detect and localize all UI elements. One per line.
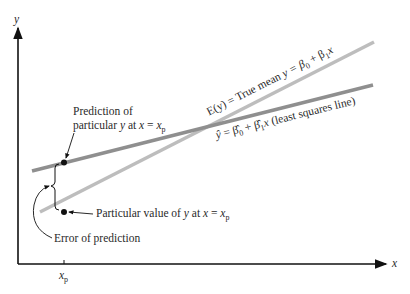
predicted-point (61, 160, 67, 166)
xp-tick-label: xp (59, 268, 68, 287)
prediction-label-line2: particular y at x = xp (73, 118, 166, 137)
prediction-label: Prediction of particular y at x = xp (73, 104, 166, 137)
particular-pointer (69, 212, 93, 214)
x-axis-label: x (392, 256, 397, 270)
error-of-prediction-label: Error of prediction (54, 231, 140, 245)
prediction-label-line1: Prediction of (73, 104, 166, 118)
particular-point (61, 209, 67, 215)
y-axis-label: y (14, 12, 19, 26)
xp-sub: p (64, 275, 68, 284)
particular-value-label: Particular value of y at x = xp (96, 206, 229, 225)
regression-diagram (0, 0, 410, 294)
